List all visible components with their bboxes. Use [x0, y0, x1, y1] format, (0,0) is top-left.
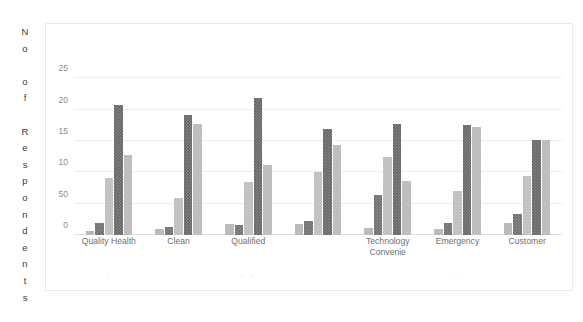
bar-groups	[74, 69, 562, 235]
bar-group	[283, 69, 353, 235]
scan-artifact-mark: - -	[423, 272, 493, 282]
bar	[523, 176, 532, 235]
scan-artifact-mark	[353, 272, 423, 282]
bar	[402, 181, 411, 235]
bar	[174, 198, 183, 235]
x-axis-category-label: Qualified	[213, 234, 283, 272]
bar	[393, 124, 402, 236]
y-axis-title-char: R	[22, 124, 29, 141]
plot-area: 25201510500	[74, 69, 562, 235]
bar	[304, 221, 313, 235]
bar	[314, 172, 323, 235]
x-axis-labels: Quality HealthCleanQualifiedTechnologyCo…	[74, 234, 562, 272]
y-axis-title-char: n	[22, 256, 27, 273]
y-axis-title-char: p	[22, 173, 27, 190]
bar	[263, 165, 272, 235]
x-axis-category-label: Quality Health	[74, 234, 144, 272]
x-axis-category-label: Clean	[144, 234, 214, 272]
scan-artifact-marks: -- -- -	[74, 272, 562, 282]
y-axis-tick-label: 20	[59, 95, 68, 105]
y-axis-title-char: o	[22, 74, 27, 91]
y-axis-tick-label: 0	[63, 220, 68, 230]
bar	[114, 105, 123, 235]
bar	[124, 155, 133, 235]
y-axis-title-char: s	[23, 157, 28, 174]
scan-artifact-mark: -	[74, 272, 144, 282]
scan-artifact-mark	[283, 272, 353, 282]
y-axis-title-char: N	[22, 24, 29, 41]
bar	[513, 214, 522, 235]
scan-artifact-mark	[492, 272, 562, 282]
y-axis-title-char: e	[22, 140, 27, 157]
bar	[472, 127, 481, 235]
x-axis-category-label: Customer	[492, 234, 562, 272]
bar-group	[353, 69, 423, 235]
bar	[323, 129, 332, 235]
chart-figure: No.of.Respondents 25201510500 Quality He…	[0, 0, 583, 322]
y-axis-tick-label: 10	[59, 157, 68, 167]
bar-group	[423, 69, 493, 235]
bar	[453, 191, 462, 235]
bar	[184, 115, 193, 235]
y-axis-title-char: o	[22, 41, 27, 58]
y-axis-tick-label: 50	[59, 189, 68, 199]
y-axis-title-char: n	[22, 207, 27, 224]
bar	[374, 195, 383, 235]
y-axis-tick-label: 15	[59, 126, 68, 136]
bar-group	[213, 69, 283, 235]
y-axis-title-char: f	[24, 90, 27, 107]
bar	[333, 145, 342, 235]
bar	[105, 178, 114, 235]
y-axis-title-char: s	[23, 290, 28, 307]
scan-artifact-mark	[144, 272, 214, 282]
scan-artifact-mark: - -	[213, 272, 283, 282]
bar	[244, 182, 253, 235]
bar	[542, 140, 551, 235]
bar	[383, 157, 392, 235]
bar	[532, 140, 541, 235]
x-axis-category-label: Emergency	[423, 234, 493, 272]
y-axis-title-char: e	[22, 240, 27, 257]
y-axis-tick-label: 25	[59, 63, 68, 73]
x-axis-category-label: TechnologyConvenie	[353, 234, 423, 272]
y-axis-title-char: d	[22, 223, 27, 240]
y-axis-title-char: t	[24, 273, 27, 290]
bar-group	[74, 69, 144, 235]
bar	[463, 125, 472, 235]
bar	[254, 98, 263, 235]
bar	[193, 124, 202, 235]
y-axis-title: No.of.Respondents	[14, 24, 36, 294]
plot-frame: 25201510500 Quality HealthCleanQualified…	[45, 23, 573, 291]
bar-group	[144, 69, 214, 235]
bar-group	[492, 69, 562, 235]
x-axis-category-label	[283, 234, 353, 272]
y-axis-title-char: o	[22, 190, 27, 207]
